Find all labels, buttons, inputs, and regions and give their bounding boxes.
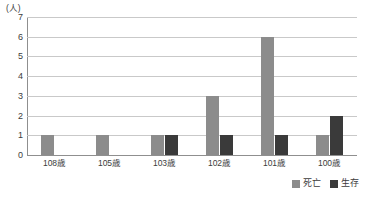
bar xyxy=(96,135,109,155)
y-axis-tick-label: 7 xyxy=(18,13,23,22)
gridline xyxy=(27,155,357,156)
bar xyxy=(151,135,164,155)
bar xyxy=(220,135,233,155)
legend-label: 死亡 xyxy=(303,179,321,188)
y-axis-tick-label: 3 xyxy=(18,91,23,100)
legend-swatch-icon xyxy=(330,180,338,188)
legend-swatch-icon xyxy=(292,180,300,188)
bar xyxy=(316,135,329,155)
bar-group xyxy=(82,17,137,155)
y-axis-tick-label: 1 xyxy=(18,131,23,140)
x-axis-tick-label: 103歳 xyxy=(137,157,192,169)
x-axis-tick-label: 102歳 xyxy=(192,157,247,169)
bar xyxy=(165,135,178,155)
bar xyxy=(206,96,219,155)
x-axis-tick-label: 100歳 xyxy=(302,157,357,169)
y-axis-tick-label: 6 xyxy=(18,32,23,41)
x-axis-ticks: 108歳105歳103歳102歳101歳100歳 xyxy=(27,157,357,171)
bar-group xyxy=(302,17,357,155)
x-axis-tick-label: 108歳 xyxy=(27,157,82,169)
bar-group xyxy=(27,17,82,155)
y-axis-tick-label: 0 xyxy=(18,151,23,160)
bar xyxy=(261,37,274,155)
legend-label: 生存 xyxy=(341,179,359,188)
bar xyxy=(41,135,54,155)
legend: 死亡生存 xyxy=(292,179,359,188)
bar-chart: (人) 76543210 108歳105歳103歳102歳101歳100歳 死亡… xyxy=(0,0,371,199)
x-axis-tick-label: 105歳 xyxy=(82,157,137,169)
legend-item[interactable]: 生存 xyxy=(330,179,359,188)
bar xyxy=(275,135,288,155)
x-axis-tick-label: 101歳 xyxy=(247,157,302,169)
legend-item[interactable]: 死亡 xyxy=(292,179,321,188)
plot-area: 76543210 xyxy=(27,17,357,155)
bar-group xyxy=(192,17,247,155)
y-axis-tick-label: 5 xyxy=(18,52,23,61)
y-axis-tick-label: 2 xyxy=(18,111,23,120)
y-axis-tick-label: 4 xyxy=(18,72,23,81)
bar xyxy=(330,116,343,155)
bar-group xyxy=(137,17,192,155)
bar-group xyxy=(247,17,302,155)
bar-groups xyxy=(27,17,357,155)
